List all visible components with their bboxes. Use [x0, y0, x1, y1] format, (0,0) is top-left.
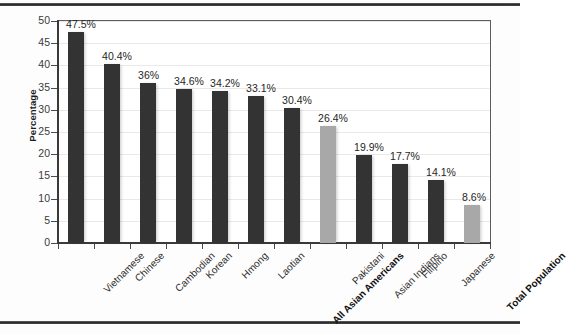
- bar[interactable]: [212, 91, 228, 243]
- x-axis-tick: [166, 244, 167, 249]
- y-axis-tick: [51, 43, 57, 44]
- bar[interactable]: [428, 180, 444, 243]
- bar[interactable]: [104, 64, 120, 243]
- bar[interactable]: [140, 83, 156, 243]
- x-axis-tick: [454, 244, 455, 249]
- bar[interactable]: [176, 89, 192, 243]
- y-axis-tick-label: 40: [20, 59, 50, 69]
- bar-value-label: 33.1%: [246, 83, 276, 94]
- bar-value-label: 34.2%: [210, 78, 240, 89]
- bar-value-label: 14.1%: [426, 167, 456, 178]
- bar[interactable]: [284, 108, 300, 243]
- bar[interactable]: [356, 155, 372, 243]
- bar-chart-figure: 05101520253035404550 Percentage 47.5%40.…: [14, 14, 506, 316]
- x-axis-tick: [238, 244, 239, 249]
- bar-value-label: 47.5%: [66, 19, 96, 30]
- y-axis-tick: [51, 132, 57, 133]
- y-axis-tick-label: 10: [20, 193, 50, 203]
- y-axis-tick-label: 15: [20, 170, 50, 180]
- y-axis-tick: [51, 199, 57, 200]
- bar-value-label: 30.4%: [282, 95, 312, 106]
- x-axis-tick: [418, 244, 419, 249]
- y-axis-tick: [51, 88, 57, 89]
- y-axis-tick: [51, 176, 57, 177]
- x-axis-tick: [310, 244, 311, 249]
- x-axis-tick: [490, 244, 491, 249]
- y-axis-tick: [51, 154, 57, 155]
- bar-series: 47.5%40.4%36%34.6%34.2%33.1%30.4%26.4%19…: [58, 21, 490, 243]
- x-axis-category-label: Hmong: [239, 250, 270, 281]
- x-axis-category-label: Laotian: [276, 250, 307, 281]
- bar-value-label: 34.6%: [174, 76, 204, 87]
- bar-value-label: 26.4%: [318, 113, 348, 124]
- page-rule-bottom: [0, 321, 520, 324]
- y-axis-tick: [51, 110, 57, 111]
- y-axis-title: Percentage: [27, 76, 38, 156]
- bar[interactable]: [68, 32, 84, 243]
- x-axis-tick: [202, 244, 203, 249]
- bar[interactable]: [464, 205, 480, 243]
- x-axis-tick: [382, 244, 383, 249]
- y-axis-tick-label: 5: [20, 215, 50, 225]
- bar-value-label: 17.7%: [390, 151, 420, 162]
- y-axis-tick: [51, 65, 57, 66]
- x-axis-tick: [94, 244, 95, 249]
- page-rule-top: [0, 3, 520, 6]
- y-axis-tick: [51, 221, 57, 222]
- bar-value-label: 36%: [138, 70, 159, 81]
- x-axis-tick: [274, 244, 275, 249]
- x-axis-tick: [58, 244, 59, 249]
- bar[interactable]: [320, 126, 336, 243]
- x-axis-category-label: Total Population: [505, 250, 567, 313]
- bar-value-label: 19.9%: [354, 142, 384, 153]
- x-axis-tick: [130, 244, 131, 249]
- x-axis-category-labels: VietnameseChineseCambodianKoreanHmongLao…: [58, 250, 506, 316]
- y-axis-tick-label: 50: [20, 15, 50, 25]
- y-axis-tick: [51, 21, 57, 22]
- x-axis-tick: [346, 244, 347, 249]
- y-axis-tick-label: 45: [20, 37, 50, 47]
- y-axis-tick: [51, 243, 57, 244]
- bar-value-label: 40.4%: [102, 51, 132, 62]
- bar[interactable]: [248, 96, 264, 243]
- y-axis-tick-label: 0: [20, 237, 50, 247]
- x-axis-category-label: Japanese: [459, 250, 497, 288]
- bar-value-label: 8.6%: [462, 192, 486, 203]
- bar[interactable]: [392, 164, 408, 243]
